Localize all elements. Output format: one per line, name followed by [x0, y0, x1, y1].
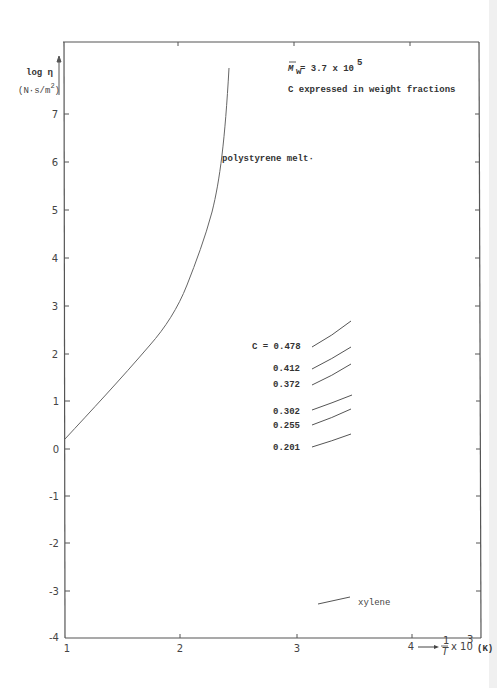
y-axis-unit: (N·s/m2) — [18, 82, 60, 96]
polystyrene-melt-curve — [65, 68, 229, 439]
line-c-0372 — [312, 364, 351, 385]
mw-annotation: M w = 3.7 x 10 5 — [287, 58, 362, 77]
y-tick-1: 1 — [53, 396, 59, 407]
label-xylene: xylene — [358, 598, 390, 608]
y-tick-5: 5 — [52, 205, 58, 216]
x-tick-labels: 1 2 3 4 — [64, 641, 414, 654]
x-axis-frac-num: 1 — [443, 635, 449, 646]
label-c-0372: 0.372 — [273, 380, 300, 390]
y-axis-title: log η (N·s/m2) — [18, 68, 60, 96]
y-tick-neg4: -4 — [49, 632, 59, 643]
concentration-labels: C = 0.478 0.412 0.372 0.302 0.255 0.201 … — [252, 342, 390, 608]
mw-value: = 3.7 x 10 — [300, 64, 354, 74]
x-axis-unit: (K) — [477, 644, 493, 654]
y-tick-7: 7 — [52, 109, 58, 120]
label-c-0201: 0.201 — [273, 443, 301, 453]
label-c-0302: 0.302 — [273, 407, 300, 417]
polystyrene-melt-label: polystyrene melt· — [222, 154, 314, 164]
label-c-0478: C = 0.478 — [252, 342, 301, 352]
y-tick-0: 0 — [53, 444, 59, 455]
y-tick-neg2: -2 — [49, 538, 59, 549]
line-c-0302 — [312, 395, 352, 410]
x-tick-3: 3 — [294, 643, 300, 654]
y-tick-4: 4 — [52, 253, 58, 264]
x-tick-4: 4 — [408, 641, 414, 652]
label-c-0412: 0.412 — [273, 364, 300, 374]
x-axis-frac-den: T — [442, 646, 449, 657]
chart: 7 6 5 4 3 2 1 0 -1 -2 -3 -4 1 2 3 4 1 T … — [0, 0, 497, 688]
line-c-0412 — [312, 347, 351, 369]
line-c-0201 — [312, 434, 351, 447]
c-note-annotation: C expressed in weight fractions — [288, 85, 455, 95]
x-tick-1: 1 — [64, 643, 70, 654]
mw-symbol: M — [287, 64, 294, 74]
y-tick-neg1: -1 — [49, 491, 59, 502]
line-c-0478 — [312, 321, 351, 347]
plot-frame — [63, 42, 481, 638]
line-c-0255 — [312, 409, 351, 425]
x-axis-exp: 3 — [467, 634, 473, 645]
x-tick-2: 2 — [177, 643, 183, 654]
y-tick-6: 6 — [52, 157, 58, 168]
label-c-0255: 0.255 — [273, 421, 300, 431]
y-tick-2: 2 — [52, 349, 58, 360]
y-tick-neg3: -3 — [49, 586, 59, 597]
y-tick-3: 3 — [52, 301, 58, 312]
y-tick-labels: 7 6 5 4 3 2 1 0 -1 -2 -3 -4 — [49, 109, 59, 643]
y-axis-title-text: log η — [26, 68, 53, 78]
line-xylene — [318, 597, 350, 604]
concentration-lines — [312, 321, 352, 604]
mw-exponent: 5 — [357, 58, 362, 68]
